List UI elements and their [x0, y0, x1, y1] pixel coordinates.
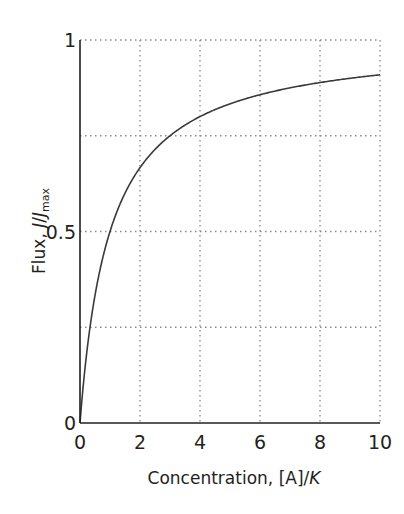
grid-lines: [80, 40, 380, 423]
x-axis-title: Concentration, [A]/K: [148, 468, 323, 488]
x-tick-label: 2: [134, 431, 146, 453]
y-tick-label: 0.5: [46, 221, 76, 243]
flux-chart: 0246810 00.51 Concentration, [A]/K Flux,…: [0, 0, 404, 514]
y-tick-label: 0: [64, 412, 76, 434]
x-tick-label: 4: [194, 431, 206, 453]
x-tick-label: 10: [368, 431, 392, 453]
y-axis-title: Flux, J/Jmax: [29, 188, 52, 274]
x-tick-label: 8: [314, 431, 326, 453]
x-tick-label: 0: [74, 431, 86, 453]
flux-curve: [80, 75, 380, 423]
x-tick-labels: 0246810: [74, 431, 392, 453]
x-tick-label: 6: [254, 431, 266, 453]
y-tick-label: 1: [64, 29, 76, 51]
y-tick-labels: 00.51: [46, 29, 76, 434]
